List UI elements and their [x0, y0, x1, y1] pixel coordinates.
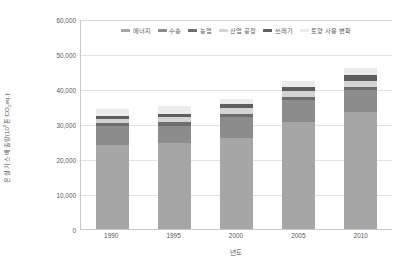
- legend-label: 농업: [200, 26, 212, 35]
- bar-segment[interactable]: [158, 143, 191, 229]
- legend-swatch-icon: [188, 29, 197, 32]
- legend-item[interactable]: 농업: [188, 26, 212, 35]
- y-axis-title: 온실 가스 배출량(106톤 CO2eq.): [0, 55, 14, 220]
- legend: 에너지수송농업산업 공정쓰레기토양 사용 변화: [80, 26, 392, 35]
- y-axis-tick-label: 50,000: [56, 52, 76, 59]
- bar-group: [81, 20, 392, 229]
- bar-segment[interactable]: [344, 112, 377, 229]
- y-axis-tick-label: 0: [72, 227, 76, 234]
- legend-label: 에너지: [133, 26, 151, 35]
- legend-item[interactable]: 쓰레기: [263, 26, 293, 35]
- bar-segment[interactable]: [344, 81, 377, 88]
- bar-stack-1990[interactable]: [96, 20, 129, 229]
- bar-segment[interactable]: [158, 106, 191, 114]
- bar-segment[interactable]: [158, 126, 191, 144]
- legend-label: 수송: [169, 26, 181, 35]
- y-axis-title-prefix: 온실 가스 배출량(10: [3, 126, 10, 182]
- legend-label: 산업 공정: [230, 26, 256, 35]
- legend-swatch-icon: [158, 29, 167, 32]
- bar-stack-1995[interactable]: [158, 20, 191, 229]
- bar-segment[interactable]: [344, 90, 377, 112]
- y-axis-title-text: 온실 가스 배출량(106톤 CO2eq.): [2, 93, 12, 182]
- y-axis-tick-label: 10,000: [56, 192, 76, 199]
- legend-label: 쓰레기: [275, 26, 293, 35]
- legend-item[interactable]: 산업 공정: [219, 26, 256, 35]
- bar-segment[interactable]: [282, 100, 315, 122]
- x-axis-title: 년도: [80, 247, 392, 257]
- legend-item[interactable]: 수송: [158, 26, 182, 35]
- legend-label: 토양 사용 변화: [311, 26, 350, 35]
- bar-segment[interactable]: [96, 145, 129, 229]
- x-axis-tick-label: 1990: [95, 232, 128, 244]
- y-axis-title-middle: 톤 CO: [3, 107, 10, 124]
- y-axis-tick-label: 20,000: [56, 157, 76, 164]
- x-axis-tick-labels: 19901995200020052010: [80, 232, 392, 244]
- plot-area: [80, 20, 392, 230]
- bar-segment[interactable]: [96, 126, 129, 145]
- x-axis-tick-label: 2000: [219, 232, 252, 244]
- x-axis-tick-label: 1995: [157, 232, 190, 244]
- y-axis-tick-labels: 010,00020,00030,00040,00050,00060,000: [32, 0, 80, 275]
- legend-swatch-icon: [300, 29, 309, 32]
- y-axis-tick-label: 30,000: [56, 122, 76, 129]
- bar-segment[interactable]: [220, 138, 253, 229]
- y-axis-tick-label: 40,000: [56, 87, 76, 94]
- y-axis-title-suffix: eq.): [3, 93, 10, 104]
- bar-segment[interactable]: [282, 122, 315, 229]
- bar-stack-2005[interactable]: [282, 20, 315, 229]
- greenhouse-gas-emissions-chart: 온실 가스 배출량(106톤 CO2eq.) 010,00020,00030,0…: [0, 0, 400, 275]
- legend-swatch-icon: [219, 29, 228, 32]
- bar-segment[interactable]: [344, 68, 377, 75]
- legend-swatch-icon: [263, 29, 272, 32]
- x-axis-tick-label: 2005: [282, 232, 315, 244]
- bar-stack-2000[interactable]: [220, 20, 253, 229]
- legend-item[interactable]: 토양 사용 변화: [300, 26, 351, 35]
- y-axis-tick-label: 60,000: [56, 17, 76, 24]
- x-axis-tick-label: 2010: [344, 232, 377, 244]
- bar-segment[interactable]: [220, 117, 253, 137]
- bar-stack-2010[interactable]: [344, 20, 377, 229]
- legend-item[interactable]: 에너지: [121, 26, 151, 35]
- legend-swatch-icon: [121, 29, 130, 32]
